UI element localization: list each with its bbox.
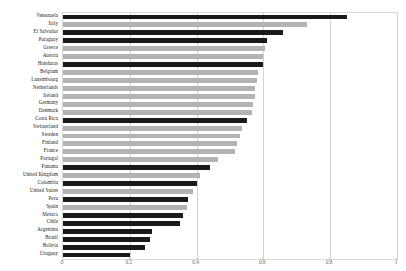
bar[interactable] bbox=[63, 15, 347, 20]
bar-row[interactable] bbox=[63, 237, 397, 242]
x-tick-label: 1 bbox=[395, 259, 398, 265]
bar-row[interactable] bbox=[63, 46, 397, 51]
bar[interactable] bbox=[63, 94, 255, 99]
bar-row[interactable] bbox=[63, 157, 397, 162]
x-tick-label: 0.8 bbox=[326, 259, 333, 265]
bar-row[interactable] bbox=[63, 38, 397, 43]
bar[interactable] bbox=[63, 141, 237, 146]
bar-row[interactable] bbox=[63, 205, 397, 210]
bar[interactable] bbox=[63, 237, 150, 242]
bar-row[interactable] bbox=[63, 253, 397, 258]
category-label: United States bbox=[30, 188, 58, 193]
category-label: Italy bbox=[48, 21, 58, 26]
bar-row[interactable] bbox=[63, 134, 397, 139]
bar-row[interactable] bbox=[63, 54, 397, 59]
bar[interactable] bbox=[63, 253, 130, 258]
bar-row[interactable] bbox=[63, 141, 397, 146]
bar[interactable] bbox=[63, 54, 263, 59]
category-label: Spain bbox=[46, 204, 58, 209]
category-label: Mexico bbox=[42, 212, 58, 217]
category-label: Denmark bbox=[39, 108, 58, 113]
bar[interactable] bbox=[63, 221, 180, 226]
bar[interactable] bbox=[63, 134, 240, 139]
bar-row[interactable] bbox=[63, 94, 397, 99]
bar-row[interactable] bbox=[63, 221, 397, 226]
category-label: Argentina bbox=[37, 227, 58, 232]
bar-row[interactable] bbox=[63, 22, 397, 27]
category-label: Brazil bbox=[45, 235, 58, 240]
category-label: Panama bbox=[42, 164, 58, 169]
category-label: Luxembourg bbox=[31, 77, 58, 82]
bar[interactable] bbox=[63, 173, 200, 178]
category-label: Colombia bbox=[38, 180, 59, 185]
category-label: Belgium bbox=[40, 69, 58, 74]
bar[interactable] bbox=[63, 118, 247, 123]
bar[interactable] bbox=[63, 102, 253, 107]
category-label: Austria bbox=[43, 53, 58, 58]
bar-row[interactable] bbox=[63, 15, 397, 20]
bar[interactable] bbox=[63, 149, 235, 154]
bar-row[interactable] bbox=[63, 149, 397, 154]
bar-row[interactable] bbox=[63, 118, 397, 123]
category-label: Greece bbox=[43, 45, 58, 50]
bar[interactable] bbox=[63, 189, 193, 194]
bar-row[interactable] bbox=[63, 229, 397, 234]
bar-row[interactable] bbox=[63, 86, 397, 91]
category-label: Ireland bbox=[43, 93, 58, 98]
bar-row[interactable] bbox=[63, 126, 397, 131]
category-label: Finland bbox=[42, 140, 58, 145]
category-label: France bbox=[44, 148, 58, 153]
bar-chart: VenezuelaItalyEl SalvadorParaguayGreeceA… bbox=[0, 0, 406, 271]
bar[interactable] bbox=[63, 86, 255, 91]
bar-row[interactable] bbox=[63, 173, 397, 178]
category-label: Paraguay bbox=[39, 37, 58, 42]
bar-row[interactable] bbox=[63, 110, 397, 115]
bar[interactable] bbox=[63, 181, 197, 186]
category-label: Bolivia bbox=[43, 243, 58, 248]
bar[interactable] bbox=[63, 197, 188, 202]
bar[interactable] bbox=[63, 229, 152, 234]
plot-area bbox=[62, 12, 398, 260]
bar-row[interactable] bbox=[63, 70, 397, 75]
category-label: Honduras bbox=[38, 61, 58, 66]
category-label: United Kingdom bbox=[23, 172, 58, 177]
bar-row[interactable] bbox=[63, 102, 397, 107]
bar[interactable] bbox=[63, 46, 265, 51]
category-label: El Salvador bbox=[34, 29, 58, 34]
bar[interactable] bbox=[63, 110, 252, 115]
bar[interactable] bbox=[63, 205, 187, 210]
x-tick-label: 0.6 bbox=[259, 259, 266, 265]
category-label: Netherlands bbox=[33, 85, 58, 90]
bar-row[interactable] bbox=[63, 181, 397, 186]
bar-row[interactable] bbox=[63, 213, 397, 218]
category-label: Venezuela bbox=[37, 13, 58, 18]
category-label: Chile bbox=[47, 219, 58, 224]
category-label: Costa Rica bbox=[35, 116, 58, 121]
bar-rows bbox=[63, 13, 397, 259]
bar[interactable] bbox=[63, 245, 145, 250]
bar[interactable] bbox=[63, 78, 257, 83]
x-tick-label: 0.2 bbox=[125, 259, 132, 265]
bar[interactable] bbox=[63, 22, 307, 27]
bar-row[interactable] bbox=[63, 78, 397, 83]
bar[interactable] bbox=[63, 38, 267, 43]
bar[interactable] bbox=[63, 62, 263, 67]
bar[interactable] bbox=[63, 213, 183, 218]
bar[interactable] bbox=[63, 157, 218, 162]
bar[interactable] bbox=[63, 165, 210, 170]
category-label: Portugal bbox=[40, 156, 58, 161]
bar-row[interactable] bbox=[63, 197, 397, 202]
category-label: Switzerland bbox=[33, 124, 58, 129]
x-tick-label: 0.4 bbox=[192, 259, 199, 265]
bar-row[interactable] bbox=[63, 189, 397, 194]
category-label: Peru bbox=[48, 196, 58, 201]
x-tick-label: 0 bbox=[61, 259, 64, 265]
category-label: Uruguay bbox=[40, 251, 58, 256]
bar[interactable] bbox=[63, 30, 283, 35]
bar-row[interactable] bbox=[63, 30, 397, 35]
bar-row[interactable] bbox=[63, 245, 397, 250]
bar-row[interactable] bbox=[63, 62, 397, 67]
bar[interactable] bbox=[63, 126, 242, 131]
bar[interactable] bbox=[63, 70, 258, 75]
bar-row[interactable] bbox=[63, 165, 397, 170]
